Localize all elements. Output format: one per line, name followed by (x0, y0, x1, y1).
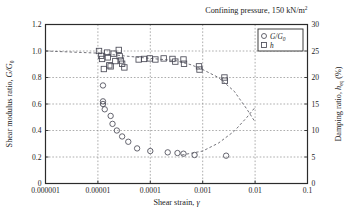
data-point-circle (100, 83, 105, 88)
data-point-circle (119, 134, 124, 139)
data-point-circle (175, 150, 180, 155)
data-point-circle (110, 121, 115, 126)
data-point-circle (108, 113, 113, 118)
x-tick-label: 0.00001 (86, 186, 111, 195)
data-point-circle (192, 152, 197, 157)
y-left-tick-label: 0.4 (32, 126, 42, 135)
x-axis-label: Shear strain, γ (153, 198, 200, 207)
chart-title: Confining pressure, 150 kN/m2 (205, 5, 308, 15)
data-point-square (122, 65, 127, 70)
y-right-tick-label: 5 (312, 153, 316, 162)
data-point-square (111, 51, 116, 56)
data-point-square (161, 56, 166, 61)
x-tick-label: 0.000001 (31, 186, 60, 195)
y-right-tick-label: 20 (312, 73, 320, 82)
x-tick-label: 0.001 (194, 186, 211, 195)
trend-curve-G-trend-ascending (182, 107, 255, 155)
legend-label-square: h (270, 41, 274, 50)
data-point-circle (223, 153, 228, 158)
y-left-tick-label: 1.2 (32, 20, 42, 29)
y-left-axis-label: Shear modulus ratio, G/G0 (5, 60, 15, 147)
y-right-tick-label: 25 (312, 47, 320, 56)
data-point-square (153, 57, 158, 62)
y-right-tick-label: 10 (312, 126, 320, 135)
y-left-tick-label: 0.8 (32, 73, 42, 82)
data-point-circle (134, 146, 139, 151)
data-point-circle (165, 150, 170, 155)
data-point-circle (102, 107, 107, 112)
y-left-tick-label: 0.2 (32, 153, 42, 162)
data-point-circle (126, 139, 131, 144)
y-right-tick-label: 15 (312, 100, 320, 109)
y-left-tick-label: 1.0 (32, 47, 42, 56)
data-point-square (101, 66, 106, 71)
y-left-tick-label: 0 (38, 179, 42, 188)
y-right-tick-label: 30 (312, 20, 320, 29)
chart-canvas: 0.0000010.000010.00010.0010.010.100.20.4… (0, 0, 350, 218)
y-right-tick-label: 0 (312, 179, 316, 188)
data-point-circle (181, 151, 186, 156)
data-point-square (141, 56, 146, 61)
x-tick-label: 0.0001 (140, 186, 161, 195)
y-right-axis-label: Damping ratio, heq (%) (334, 66, 344, 141)
y-left-tick-label: 0.6 (32, 100, 42, 109)
figure-container: 0.0000010.000010.00010.0010.010.100.20.4… (0, 0, 350, 218)
data-point-square (116, 47, 121, 52)
x-tick-label: 0.01 (248, 186, 261, 195)
